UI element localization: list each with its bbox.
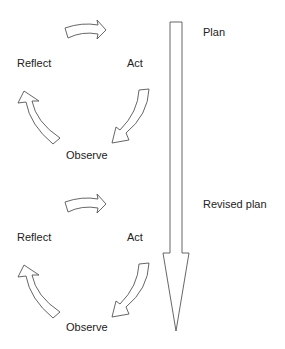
label-revised-plan: Revised plan: [203, 198, 267, 210]
curved-arrow-up-icon: [18, 265, 60, 318]
label-reflect: Reflect: [17, 57, 51, 69]
upper-cycle: Reflect Act Observe: [17, 20, 149, 161]
label-observe: Observe: [66, 321, 108, 333]
curved-arrow-down-left-icon: [112, 89, 149, 143]
timeline-down-arrow-icon: [163, 22, 189, 331]
curved-arrow-up-icon: [18, 91, 60, 144]
curved-arrow-right-icon: [65, 20, 106, 39]
diagram-canvas: Reflect Act Observe Reflect Act Observe …: [0, 0, 285, 349]
lower-cycle: Reflect Act Observe: [17, 194, 149, 333]
curved-arrow-right-icon: [65, 194, 106, 213]
label-act: Act: [127, 57, 143, 69]
label-reflect: Reflect: [17, 231, 51, 243]
label-act: Act: [127, 231, 143, 243]
label-plan: Plan: [203, 26, 225, 38]
label-observe: Observe: [66, 149, 108, 161]
curved-arrow-down-left-icon: [112, 263, 149, 317]
